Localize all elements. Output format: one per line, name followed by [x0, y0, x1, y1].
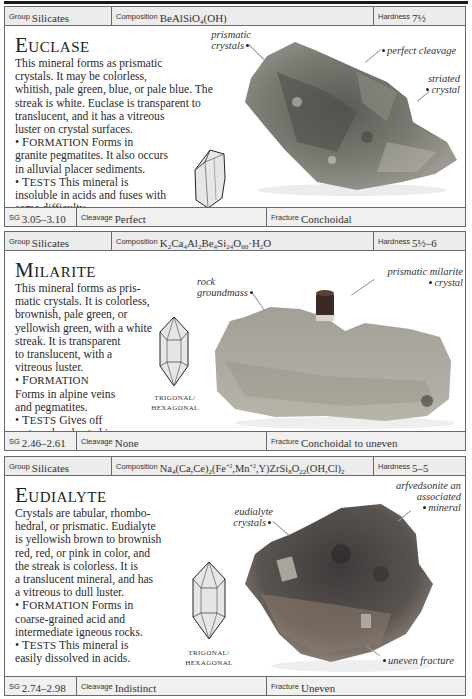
- composition-cell: CompositionBeAlSiO4(OH): [112, 7, 374, 25]
- composition-cell: CompositionK2Ca4Al2Be4Si24O60·H2O: [112, 232, 374, 250]
- monoclinic-crystal-icon: [190, 148, 230, 210]
- formation-section: • FORMATION Forms in: [15, 599, 175, 612]
- mineral-title: MILARITE: [15, 258, 96, 283]
- composition-cell: CompositionNa4(Ca,Ce)2(Fe+2,Mn+2,Y)ZrSi8…: [112, 457, 374, 475]
- cleavage-cell: CleavageIndistinct: [77, 677, 267, 695]
- card-footer-row: SG2.46–2.61 CleavageNone FractureConchoi…: [5, 431, 465, 450]
- mineral-card-euclase: GroupSilicates CompositionBeAlSiO4(OH) H…: [4, 6, 466, 227]
- fracture-cell: FractureUneven: [267, 677, 465, 695]
- crystal-system-label: TRIGONAL/HEXAGONAL: [145, 393, 205, 413]
- milarite-specimen-image: [205, 281, 467, 431]
- group-cell: GroupSilicates: [5, 457, 112, 475]
- group-cell: GroupSilicates: [5, 7, 112, 25]
- composition-formula: Na4(Ca,Ce)2(Fe+2,Mn+2,Y)ZrSi8O22(OH,Cl)2: [160, 463, 345, 474]
- sg-cell: SG3.05–3.10: [5, 208, 77, 226]
- trigonal-hexagonal-crystal-icon: [157, 316, 191, 388]
- mineral-card-eudialyte: GroupSilicates CompositionNa4(Ca,Ce)2(Fe…: [4, 456, 466, 696]
- card-header-row: GroupSilicates CompositionBeAlSiO4(OH) H…: [5, 7, 465, 26]
- formation-section: • FORMATION: [15, 374, 165, 387]
- mineral-description: Crystals are tabular, rhombo- hedral, or…: [15, 507, 175, 665]
- sg-cell: SG2.74–2.98: [5, 677, 77, 695]
- euclase-specimen-image: [237, 32, 463, 197]
- trigonal-hexagonal-crystal-icon: [189, 561, 229, 641]
- card-header-row: GroupSilicates CompositionK2Ca4Al2Be4Si2…: [5, 232, 465, 251]
- mineral-title: EUDIALYTE: [15, 483, 107, 508]
- hardness-cell: Hardness5–5: [374, 457, 465, 475]
- top-rule: [4, 1, 468, 4]
- annotation-prismatic-milarite-crystal: prismatic milaritecrystal: [373, 266, 463, 288]
- sg-cell: SG2.46–2.61: [5, 432, 77, 450]
- annotation-rock-groundmass: rockgroundmass: [197, 276, 255, 298]
- composition-formula: BeAlSiO4(OH): [160, 12, 227, 24]
- hardness-value: 7½: [412, 12, 426, 24]
- group-cell: GroupSilicates: [5, 232, 112, 250]
- annotation-striated-crystal: striatedcrystal: [418, 73, 460, 95]
- card-footer-row: SG2.74–2.98 CleavageIndistinct FractureU…: [5, 676, 465, 695]
- tests-section: • TESTS This mineral is: [15, 639, 175, 652]
- fracture-cell: FractureConchoidal: [267, 208, 465, 226]
- annotation-arfvedsonite-associated-mineral: arfvedsonite anassociatedmineral: [391, 480, 461, 513]
- mineral-description: This mineral forms as pris- matic crysta…: [15, 282, 165, 454]
- hardness-cell: Hardness5½–6: [374, 232, 465, 250]
- card-footer-row: SG3.05–3.10 CleavagePerfect FractureConc…: [5, 207, 465, 226]
- cleavage-cell: CleavagePerfect: [77, 208, 267, 226]
- mineral-title: EUCLASE: [15, 33, 90, 58]
- annotation-uneven-fracture: uneven fracture: [381, 655, 454, 666]
- mineral-card-milarite: GroupSilicates CompositionK2Ca4Al2Be4Si2…: [4, 231, 466, 451]
- hardness-cell: Hardness7½: [374, 7, 465, 25]
- composition-formula: K2Ca4Al2Be4Si24O60·H2O: [160, 237, 272, 249]
- annotation-eudialyte-crystals: eudialytecrystals: [227, 506, 273, 528]
- card-header-row: GroupSilicates CompositionNa4(Ca,Ce)2(Fe…: [5, 457, 465, 476]
- tests-section: • TESTS Gives off: [15, 414, 165, 427]
- annotation-prismatic-crystals: prismaticcrystals: [205, 29, 251, 51]
- annotation-perfect-cleavage: perfect cleavage: [380, 45, 456, 56]
- group-value: Silicates: [32, 12, 69, 24]
- fracture-cell: FractureConchoidal to uneven: [267, 432, 465, 450]
- cleavage-cell: CleavageNone: [77, 432, 267, 450]
- crystal-system-label: TRIGONAL/HEXAGONAL: [177, 648, 241, 668]
